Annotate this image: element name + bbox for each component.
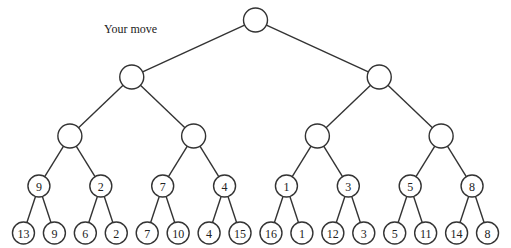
game-tree: 9139262771044151161312355118148 [0, 0, 511, 248]
tree-edge [140, 85, 185, 127]
tree-node: 3 [337, 175, 359, 197]
node-value: 5 [407, 180, 413, 194]
tree-edge [89, 196, 98, 222]
node-value: 13 [17, 227, 29, 241]
tree-edge [151, 196, 160, 222]
node-value: 9 [51, 227, 57, 241]
node-value: 4 [206, 227, 212, 241]
tree-edge [447, 146, 466, 176]
tree-node: 4 [214, 175, 236, 197]
node-value: 14 [451, 227, 463, 241]
leaf-node: 9 [43, 222, 65, 244]
node-value: 6 [82, 227, 88, 241]
tree-edge [200, 146, 219, 176]
leaf-node: 11 [415, 222, 437, 244]
tree-edge [76, 146, 95, 176]
tree-edge [324, 146, 343, 176]
tree-node [58, 124, 82, 148]
node-value: 2 [113, 227, 119, 241]
node-value: 12 [327, 227, 339, 241]
tree-edge [414, 196, 423, 222]
tree-edge [388, 85, 433, 127]
tree-edge [42, 196, 51, 222]
tree-edge [290, 196, 299, 222]
tree-edge [326, 85, 371, 127]
tree-edge [416, 146, 435, 176]
node-value: 15 [234, 227, 246, 241]
node-value: 7 [144, 227, 150, 241]
leaf-node: 3 [353, 222, 375, 244]
leaf-node: 10 [167, 222, 189, 244]
node-value: 8 [469, 180, 475, 194]
tree-edge [143, 25, 245, 72]
leaf-node: 2 [105, 222, 127, 244]
tree-edge [352, 196, 361, 222]
tree-node [429, 124, 453, 148]
leaf-node: 15 [229, 222, 251, 244]
node-value: 3 [361, 227, 367, 241]
node-value: 7 [160, 180, 166, 194]
tree-node [305, 124, 329, 148]
node-value: 11 [420, 227, 432, 241]
tree-node: 8 [461, 175, 483, 197]
node-circle [305, 124, 329, 148]
tree-node [182, 124, 206, 148]
leaf-node: 8 [477, 222, 499, 244]
node-value: 5 [392, 227, 398, 241]
node-value: 8 [485, 227, 491, 241]
node-circle [182, 124, 206, 148]
tree-edge [460, 196, 469, 222]
node-circle [58, 124, 82, 148]
node-circle [120, 65, 144, 89]
tree-node: 1 [275, 175, 297, 197]
tree-edge [79, 85, 124, 127]
tree-edge [45, 146, 64, 176]
tree-edge [213, 196, 222, 222]
tree-edge [476, 196, 485, 222]
leaf-node: 14 [446, 222, 468, 244]
node-value: 9 [36, 180, 42, 194]
root-node [244, 8, 268, 32]
tree-node [367, 65, 391, 89]
node-value: 4 [222, 180, 228, 194]
node-circle [429, 124, 453, 148]
leaf-node: 16 [260, 222, 282, 244]
leaf-node: 13 [12, 222, 34, 244]
leaf-node: 5 [384, 222, 406, 244]
tree-edge [266, 25, 368, 72]
node-value: 3 [345, 180, 351, 194]
tree-edge [292, 146, 311, 176]
node-value: 16 [265, 227, 277, 241]
tree-edge [104, 196, 113, 222]
tree-node [120, 65, 144, 89]
tree-node: 7 [152, 175, 174, 197]
node-value: 1 [299, 227, 305, 241]
tree-edge [168, 146, 187, 176]
node-value: 1 [283, 180, 289, 194]
leaf-node: 7 [136, 222, 158, 244]
node-value: 10 [172, 227, 184, 241]
node-circle [367, 65, 391, 89]
tree-node: 5 [399, 175, 421, 197]
leaf-node: 6 [74, 222, 96, 244]
tree-edge [228, 196, 237, 222]
leaf-node: 4 [198, 222, 220, 244]
tree-edge [274, 196, 283, 222]
tree-node: 9 [28, 175, 50, 197]
tree-edge [336, 196, 345, 222]
tree-edge [398, 196, 407, 222]
leaf-node: 1 [291, 222, 313, 244]
node-value: 2 [98, 180, 104, 194]
tree-edge [166, 196, 175, 222]
tree-node: 2 [90, 175, 112, 197]
node-circle [244, 8, 268, 32]
leaf-node: 12 [322, 222, 344, 244]
tree-edge [27, 196, 36, 222]
